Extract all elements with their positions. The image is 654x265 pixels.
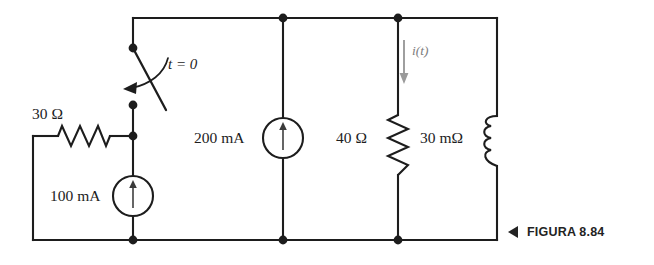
inductor-30mohm-symbol (484, 116, 497, 166)
junction-dot-bot-right (394, 236, 403, 245)
label-resistor-30ohm: 30 Ω (32, 106, 63, 122)
junction-dot-switch-bot (129, 101, 138, 110)
switch-t0-symbol[interactable] (123, 50, 168, 110)
label-source-200ma: 200 mA (194, 130, 244, 146)
junction-dot-resistor30 (129, 132, 138, 141)
current-source-100ma-symbol (113, 176, 153, 216)
figure-caption: FIGURA 8.84 (527, 225, 604, 239)
junction-dot-switch-top (129, 44, 138, 53)
left-triangle-icon (508, 226, 518, 238)
junction-dot-top-right (394, 14, 403, 23)
junction-dot-top-mid (279, 14, 288, 23)
switch-arrowhead (123, 82, 137, 94)
resistor-30ohm-symbol (58, 126, 110, 146)
label-current-it: i(t) (412, 44, 429, 58)
switch-actuation-arrow (132, 58, 168, 88)
junction-dot-bot-left (129, 236, 138, 245)
current-it-arrow (400, 40, 409, 84)
junction-dot-bot-mid (279, 236, 288, 245)
current-source-200ma-symbol (263, 118, 303, 158)
resistor-40ohm-symbol (388, 115, 408, 175)
label-switch-t0: t = 0 (168, 57, 197, 72)
circuit-figure: 30 Ω 100 mA 200 mA 40 Ω 30 mΩ t = 0 i(t)… (0, 0, 654, 265)
label-source-100ma: 100 mA (50, 188, 100, 204)
switch-blade[interactable] (134, 50, 166, 110)
label-resistor-40ohm: 40 Ω (336, 130, 367, 146)
label-inductor-30mohm: 30 mΩ (420, 130, 463, 146)
